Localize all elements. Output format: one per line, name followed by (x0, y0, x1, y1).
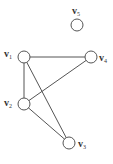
node-v5 (71, 19, 83, 31)
label-v1-sub: 1 (9, 54, 12, 60)
graph-diagram: v5 v1 v4 v2 v3 (0, 0, 113, 164)
node-v2 (18, 98, 30, 110)
label-v2-sub: 2 (9, 103, 12, 109)
node-v4 (85, 51, 97, 63)
edges-group (24, 57, 91, 143)
label-v3: v3 (78, 139, 86, 152)
nodes-group (18, 19, 97, 149)
node-v3 (63, 137, 75, 149)
label-v5-sub: 5 (77, 11, 80, 17)
edge-v2-v3 (24, 104, 69, 143)
edge-v1-v3 (24, 57, 69, 143)
label-v5: v5 (72, 6, 80, 19)
node-v1 (18, 51, 30, 63)
edge-v2-v4 (24, 57, 91, 104)
label-v4: v4 (99, 53, 107, 66)
label-v1: v1 (4, 49, 12, 62)
label-v4-sub: 4 (104, 58, 107, 64)
graph-canvas (0, 0, 113, 164)
label-v2: v2 (4, 98, 12, 111)
label-v3-sub: 3 (83, 144, 86, 150)
